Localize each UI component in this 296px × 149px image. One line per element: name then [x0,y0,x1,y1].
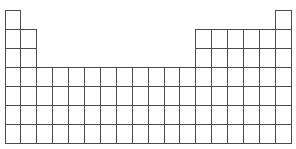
periodic-table-cell [69,67,85,86]
periodic-table-cell [259,67,275,86]
periodic-table-cell [148,105,164,124]
periodic-table-cell [164,124,180,143]
periodic-table-cell [244,105,260,124]
periodic-table-cell [196,29,212,48]
periodic-table-cell [148,67,164,86]
periodic-table-cell [196,124,212,143]
periodic-table-cell [21,86,37,105]
periodic-table-cell [37,124,53,143]
periodic-table-cell [212,67,228,86]
periodic-table-cell [85,105,101,124]
periodic-table-cell [212,105,228,124]
periodic-table-cell [244,29,260,48]
periodic-table-cell [244,67,260,86]
periodic-table-cell [275,124,291,143]
periodic-table-cell [69,105,85,124]
periodic-table-cell [21,29,37,48]
periodic-table-cell [5,86,21,105]
periodic-table-cell [275,67,291,86]
periodic-table-cell [69,86,85,105]
periodic-table-cell [180,105,196,124]
periodic-table-cell [244,86,260,105]
periodic-table-cell [100,86,116,105]
periodic-table-cell [37,67,53,86]
periodic-table-cell [196,86,212,105]
periodic-table-cell [228,105,244,124]
periodic-table-cell [116,86,132,105]
periodic-table-cell [5,124,21,143]
periodic-table-cell [85,67,101,86]
periodic-table-cell [100,67,116,86]
periodic-table-cell [116,124,132,143]
periodic-table-figure [0,0,296,149]
periodic-table-cell [212,86,228,105]
periodic-table-cell [21,48,37,67]
periodic-table-cell [37,86,53,105]
periodic-table-cell [275,10,291,29]
periodic-table-cell [53,105,69,124]
periodic-table-cell [275,105,291,124]
periodic-table-cell [164,86,180,105]
periodic-table-cell [116,67,132,86]
periodic-table-cell [53,86,69,105]
periodic-table-cell [85,86,101,105]
periodic-table-cell [180,124,196,143]
periodic-table-cell [180,67,196,86]
periodic-table-cell [259,124,275,143]
periodic-table-cell [148,124,164,143]
periodic-table-cell [132,86,148,105]
periodic-table-cell [164,105,180,124]
periodic-table-cell [116,105,132,124]
periodic-table-cell [148,86,164,105]
periodic-table-cell [259,48,275,67]
periodic-table-cell [196,105,212,124]
periodic-table-cell [196,67,212,86]
periodic-table-cell [132,105,148,124]
periodic-table-cell [212,29,228,48]
periodic-table-cell [228,48,244,67]
periodic-table-cell [244,48,260,67]
periodic-table-cell [53,124,69,143]
periodic-table-cell [228,67,244,86]
periodic-table-cell [69,124,85,143]
periodic-table-cell [275,29,291,48]
periodic-table-cell [85,124,101,143]
periodic-table-cell [164,67,180,86]
periodic-table-cell [5,10,21,29]
periodic-table-cell [100,105,116,124]
periodic-table-cell [100,124,116,143]
periodic-table-cell [132,124,148,143]
periodic-table-cell [259,86,275,105]
periodic-table-cell [228,86,244,105]
periodic-table-cell [244,124,260,143]
periodic-table-cell [5,48,21,67]
periodic-table-cell [21,105,37,124]
periodic-table-cell [259,105,275,124]
periodic-table-cell [5,105,21,124]
periodic-table-cell [228,124,244,143]
periodic-table-cell [196,48,212,67]
periodic-table-cell [5,29,21,48]
periodic-table-cell [180,86,196,105]
periodic-table-cell [275,48,291,67]
periodic-table-cell [275,86,291,105]
periodic-table-cell [5,67,21,86]
periodic-table-cell [228,29,244,48]
periodic-table-cell [132,67,148,86]
periodic-table-cell [212,48,228,67]
periodic-table-cell [21,67,37,86]
periodic-table-cell [53,67,69,86]
periodic-table-cell [212,124,228,143]
periodic-table-surface [0,0,296,149]
periodic-table-cell [21,124,37,143]
periodic-table-cell [37,105,53,124]
periodic-table-grid [0,0,296,149]
periodic-table-cell [259,29,275,48]
